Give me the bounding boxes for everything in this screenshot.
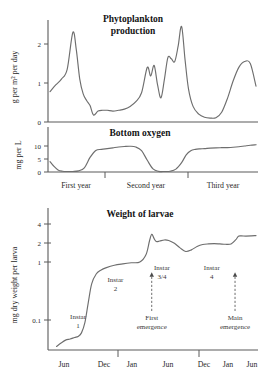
bottom-oxygen-curve (50, 145, 256, 172)
panel3-xtick-jan-2: Jan (223, 360, 233, 369)
annotation-label-line1: Instar (204, 264, 221, 272)
panel1-title-line2: production (111, 26, 156, 36)
panel-weight-of-larvae: Weight of larvae mg dry weight per larva… (10, 208, 258, 369)
panel3-ytick-2: 2 (38, 240, 42, 248)
panel2-y-axis: 0 5 10 (34, 127, 48, 177)
scientific-figure: Phytoplankton production g per m² per da… (0, 0, 266, 387)
panel-bottom-oxygen: Bottom oxygen mg per L 0 5 10 First year… (14, 127, 258, 190)
panel1-ytick-1: 1 (38, 80, 42, 88)
annotation-instar-3-4: Instar3/4 (154, 264, 171, 281)
annotation-main-emergence: Mainemergence (220, 272, 250, 331)
annotation-label-line1: Instar (107, 276, 124, 284)
panel1-title-line1: Phytoplankton (103, 14, 164, 24)
annotation-label-line2: emergence (137, 323, 167, 331)
annotation-label-line2: 1 (76, 322, 80, 330)
annotation-label-line1: Instar (154, 264, 171, 272)
panel2-y-axis-label: mg per L (14, 140, 23, 169)
emergence-arrow-head (150, 272, 154, 276)
panel2-xtick-third-year: Third year (207, 181, 240, 190)
panel2-ytick-5: 5 (38, 156, 42, 164)
panel-phytoplankton-production: Phytoplankton production g per m² per da… (10, 14, 258, 127)
annotation-label-line1: Instar (70, 313, 87, 321)
panel2-title: Bottom oxygen (110, 128, 172, 138)
panel3-y-axis: 0.1 1 2 4 (32, 208, 51, 350)
annotation-label-line1: First (145, 314, 158, 322)
annotation-label-line2: emergence (220, 323, 250, 331)
panel2-x-ticks: First year Second year Third year (61, 172, 240, 190)
panel3-xtick-dec-1: Dec (98, 360, 111, 369)
panel2-xtick-second-year: Second year (127, 181, 166, 190)
phytoplankton-curve (50, 26, 256, 118)
panel3-xtick-jan-1: Jan (127, 360, 137, 369)
panel1-y-axis-label: g per m² per day (10, 51, 19, 104)
annotation-instar-2: Instar2 (107, 276, 124, 293)
panel1-y-axis: 0 1 2 (38, 20, 49, 127)
panel2-xtick-first-year: First year (61, 181, 91, 190)
panel3-xtick-jun-2: Jun (163, 360, 174, 369)
annotation-label-line1: Main (228, 314, 243, 322)
panel3-x-ticks: Jun Dec Jan Jun Dec Jan Jun (59, 350, 258, 369)
emergence-arrow-head (233, 272, 237, 276)
panel3-y-axis-label: mg dry weight per larva (10, 246, 19, 323)
panel3-ytick-0-1: 0.1 (32, 317, 41, 325)
annotation-instar-4: Instar4 (204, 264, 221, 281)
panel3-title: Weight of larvae (106, 209, 173, 219)
panel2-ytick-0: 0 (38, 169, 42, 177)
panel3-xtick-dec-2: Dec (198, 360, 211, 369)
annotation-label-line2: 3/4 (157, 273, 166, 281)
panel3-xtick-jun-3: Jun (247, 360, 258, 369)
annotation-label-line2: 2 (114, 285, 118, 293)
figure-svg: Phytoplankton production g per m² per da… (0, 0, 266, 387)
annotation-label-line2: 4 (210, 273, 214, 281)
larvae-annotation-group: Instar1Instar2Instar3/4Instar4Firstemerg… (70, 264, 250, 331)
panel1-ytick-0: 0 (38, 119, 42, 127)
panel1-ytick-2: 2 (38, 41, 42, 49)
panel3-ytick-4: 4 (38, 221, 42, 229)
panel3-xtick-jun-1: Jun (59, 360, 70, 369)
panel3-ytick-1: 1 (38, 259, 42, 267)
panel2-ytick-10: 10 (34, 143, 42, 151)
